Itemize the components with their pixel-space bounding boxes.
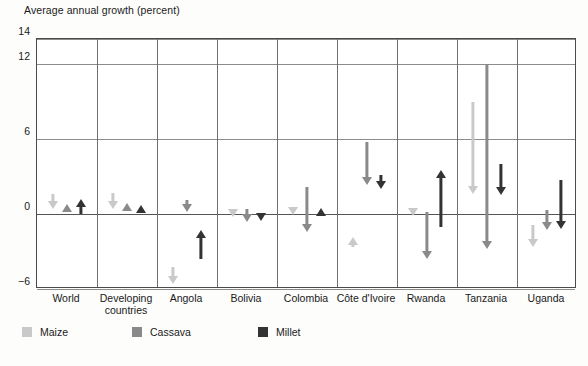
gridline-y-6 [37, 139, 575, 140]
arrow-marker [167, 267, 179, 285]
y-axis-tick-6: 6 [4, 125, 30, 137]
arrow-marker [375, 175, 387, 189]
arrow-marker [495, 164, 507, 195]
gridline-x-3 [217, 39, 218, 287]
x-axis-label-1: Developing countries [96, 292, 156, 316]
arrow-head-down-icon [408, 208, 418, 216]
arrow-shaft [172, 267, 175, 277]
legend-swatch-icon [22, 327, 32, 337]
arrow-marker [227, 209, 239, 216]
x-axis-label-8: Uganda [516, 292, 576, 304]
legend-item-maize[interactable]: Maize [22, 326, 68, 338]
arrow-shaft [365, 142, 368, 178]
legend-swatch-icon [132, 327, 142, 337]
arrow-head-down-icon [556, 221, 566, 229]
arrow-marker [361, 142, 373, 186]
gridline-x-1 [97, 39, 98, 287]
x-axis-label-6: Rwanda [396, 292, 456, 304]
arrow-head-down-icon [496, 187, 506, 195]
arrow-head-down-icon [48, 201, 58, 209]
arrow-head-down-icon [542, 222, 552, 230]
arrow-marker [467, 102, 479, 195]
arrow-shaft [52, 194, 55, 201]
arrow-head-down-icon [182, 204, 192, 212]
arrow-shaft [559, 180, 562, 221]
arrow-head-up-icon [76, 199, 86, 207]
arrow-marker [407, 208, 419, 216]
arrow-head-up-icon [62, 204, 72, 212]
arrow-marker [287, 207, 299, 216]
arrow-head-up-icon [436, 170, 446, 178]
y-axis-tick-12: 12 [4, 50, 30, 62]
legend-item-millet[interactable]: Millet [258, 326, 301, 338]
arrow-marker [135, 205, 147, 212]
gridline-y-12 [37, 64, 575, 65]
gridline-y-14 [37, 39, 575, 40]
arrow-shaft [199, 238, 202, 259]
arrow-marker [301, 187, 313, 232]
arrow-head-up-icon [196, 230, 206, 238]
gridline-x-8 [517, 39, 518, 287]
arrow-shaft [79, 207, 82, 214]
arrow-head-up-icon [122, 203, 132, 211]
arrow-shaft [305, 187, 308, 224]
arrow-shaft [545, 210, 548, 222]
arrow-marker [315, 208, 327, 215]
chart-figure: Average annual growth (percent) 141260−6… [0, 0, 588, 366]
arrow-shaft [532, 225, 535, 238]
arrow-head-down-icon [528, 239, 538, 247]
arrow-head-down-icon [242, 214, 252, 222]
arrow-marker [435, 170, 447, 226]
x-axis-label-5: Côte d'Ivoire [336, 292, 396, 304]
gridline-x-5 [337, 39, 338, 287]
arrow-shaft [425, 212, 428, 252]
arrow-head-down-icon [108, 201, 118, 209]
legend-label: Cassava [150, 326, 191, 338]
arrow-marker [107, 193, 119, 209]
legend-item-cassava[interactable]: Cassava [132, 326, 191, 338]
arrow-head-down-icon [168, 276, 178, 284]
arrow-marker [75, 199, 87, 214]
arrow-head-down-icon [362, 177, 372, 185]
arrow-shaft [499, 164, 502, 187]
gridline-y--6 [37, 289, 575, 290]
arrow-head-down-icon [468, 186, 478, 194]
arrow-head-down-icon [482, 241, 492, 249]
arrow-shaft [485, 64, 488, 241]
arrow-marker [255, 213, 267, 220]
arrow-head-up-icon [348, 237, 358, 245]
y-axis-tick-0: 0 [4, 200, 30, 212]
arrow-marker [421, 212, 433, 260]
arrow-marker [121, 203, 133, 210]
arrow-marker [347, 237, 359, 247]
arrow-head-up-icon [316, 208, 326, 216]
arrow-shaft [472, 102, 475, 187]
arrow-head-up-icon [136, 205, 146, 213]
x-axis-label-3: Bolivia [216, 292, 276, 304]
arrow-head-down-icon [288, 207, 298, 215]
x-axis-label-0: World [36, 292, 96, 304]
arrow-marker [47, 194, 59, 209]
arrow-shaft [439, 178, 442, 226]
x-axis-label-4: Colombia [276, 292, 336, 304]
arrow-marker [195, 230, 207, 259]
arrow-shaft [112, 193, 115, 201]
gridline-x-7 [457, 39, 458, 287]
legend-label: Maize [40, 326, 68, 338]
arrow-head-down-icon [256, 213, 266, 221]
arrow-marker [541, 210, 553, 230]
gridline-x-4 [277, 39, 278, 287]
x-axis-label-7: Tanzania [456, 292, 516, 304]
y-axis-tick--6: −6 [4, 275, 30, 287]
legend-label: Millet [276, 326, 301, 338]
plot-area [36, 38, 576, 288]
arrow-marker [555, 180, 567, 229]
gridline-x-6 [397, 39, 398, 287]
gridline-x-2 [157, 39, 158, 287]
arrow-shaft [352, 245, 355, 247]
arrow-marker [61, 204, 73, 211]
arrow-marker [181, 200, 193, 211]
arrow-marker [481, 64, 493, 249]
arrow-head-down-icon [376, 181, 386, 189]
legend-swatch-icon [258, 327, 268, 337]
